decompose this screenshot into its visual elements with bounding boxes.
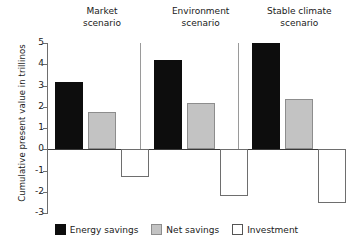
- legend-label-energy-savings: Energy savings: [70, 225, 139, 235]
- group-title-market: Market scenario: [47, 6, 157, 29]
- bar-investment-group-2: [318, 149, 346, 203]
- legend-item-investment: Investment: [232, 224, 298, 235]
- y-tick-label: 4: [38, 58, 44, 68]
- bar-net-savings-group-0: [88, 112, 116, 149]
- legend-label-investment: Investment: [247, 225, 298, 235]
- black-square-swatch-icon: [55, 224, 66, 235]
- y-tick-label: 3: [38, 80, 44, 90]
- bar-investment-group-0: [121, 149, 149, 177]
- bar-energy-savings-group-1: [154, 60, 182, 149]
- group-title-environment: Environment scenario: [146, 6, 256, 29]
- bar-net-savings-group-1: [187, 103, 215, 150]
- legend-item-energy-savings: Energy savings: [55, 224, 139, 235]
- bar-energy-savings-group-0: [55, 82, 83, 149]
- legend-label-net-savings: Net savings: [166, 225, 219, 235]
- bar-energy-savings-group-2: [252, 43, 280, 149]
- y-tick-label: 1: [38, 122, 44, 132]
- white-square-swatch-icon: [232, 224, 243, 235]
- y-tick-label: 0: [38, 143, 44, 153]
- group-separator: [238, 43, 239, 149]
- y-tick-label: -2: [35, 186, 44, 196]
- bar-investment-group-1: [220, 149, 248, 196]
- plot-area: 543210-1-2-3: [47, 43, 343, 213]
- y-tick-label: -3: [35, 207, 44, 217]
- bar-chart: Cumulative present value in trillinos Ma…: [0, 0, 353, 248]
- y-axis-title: Cumulative present value in trillinos: [17, 33, 27, 213]
- legend-item-net-savings: Net savings: [151, 224, 219, 235]
- y-tick-label: 5: [38, 37, 44, 47]
- y-tick-label: 2: [38, 101, 44, 111]
- y-tick-label: -1: [35, 165, 44, 175]
- bar-net-savings-group-2: [285, 99, 313, 149]
- group-separator: [140, 43, 141, 149]
- group-title-stable-climate: Stable climate scenario: [244, 6, 353, 29]
- gray-square-swatch-icon: [151, 224, 162, 235]
- chart-legend: Energy savings Net savings Investment: [0, 224, 353, 235]
